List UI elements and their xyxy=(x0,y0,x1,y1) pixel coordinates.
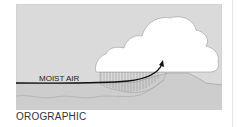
diagram-caption: OROGRAPHIC xyxy=(16,111,86,122)
page-divider xyxy=(232,0,233,127)
moist-air-label: MOIST AIR xyxy=(39,74,80,83)
orographic-diagram: MOIST AIR xyxy=(16,4,222,110)
